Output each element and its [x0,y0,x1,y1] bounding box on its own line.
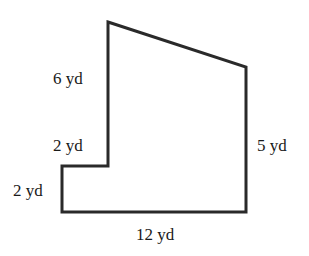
polygon-outline [0,0,309,256]
label-bottom-edge: 12 yd [136,226,174,243]
label-step-top-edge: 2 yd [53,137,83,154]
composite-shape-figure: 6 yd 2 yd 2 yd 12 yd 5 yd [0,0,309,256]
label-step-left-edge: 2 yd [13,182,43,199]
label-right-edge: 5 yd [257,137,287,154]
label-left-upper-edge: 6 yd [53,70,83,87]
